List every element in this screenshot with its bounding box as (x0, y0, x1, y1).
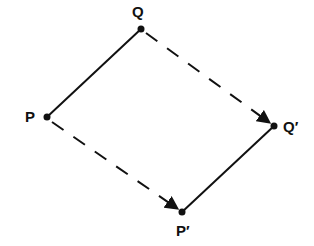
translation-arrow-p (52, 122, 178, 209)
label-q: Q (132, 3, 144, 20)
label-p: P (25, 108, 35, 125)
point-q (138, 26, 145, 33)
segment-p-prime-q-prime (182, 126, 274, 212)
point-p (44, 114, 51, 121)
translation-diagram (0, 0, 314, 246)
segment-pq (47, 29, 141, 117)
label-p-prime: P′ (176, 222, 190, 239)
label-q-prime: Q′ (283, 118, 298, 135)
point-p-prime (179, 209, 186, 216)
point-q-prime (271, 123, 278, 130)
translation-arrow-q (146, 33, 270, 123)
